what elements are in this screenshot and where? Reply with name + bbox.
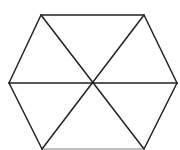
hexagon-diagonals — [9, 15, 177, 149]
hexagon-diagram — [0, 0, 180, 150]
edge-right-to-bottom-right — [144, 83, 177, 149]
edge-left-to-top-left — [9, 15, 41, 83]
edge-top-right-to-right — [144, 15, 177, 83]
edge-bottom-left-to-left — [9, 83, 42, 149]
